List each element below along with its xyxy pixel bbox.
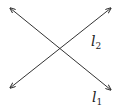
label-l2-subscript: 2	[95, 41, 101, 51]
label-l1-subscript: 1	[96, 97, 102, 107]
intersecting-lines-diagram: l2 l1	[0, 0, 119, 112]
line-label-l2: l2	[91, 33, 101, 51]
line-label-l1: l1	[92, 89, 102, 107]
